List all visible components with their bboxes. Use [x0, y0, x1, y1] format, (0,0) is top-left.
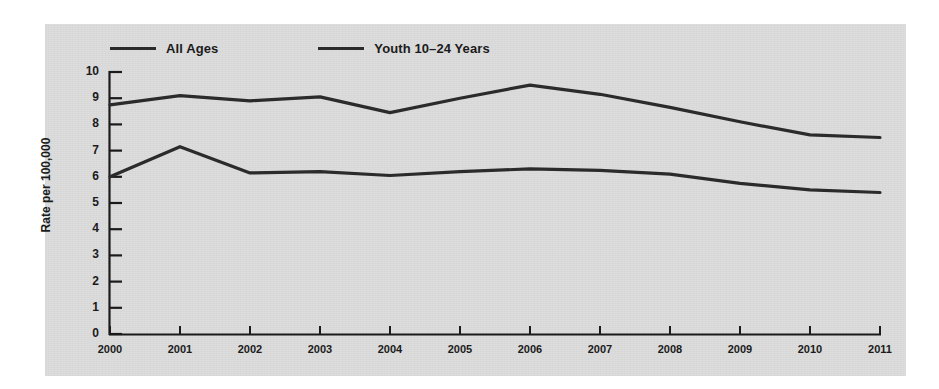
y-axis-tick-label: 9 [73, 90, 99, 104]
x-axis-tick-label: 2009 [710, 343, 770, 355]
x-axis-tick-label: 2003 [290, 343, 350, 355]
chart-figure: All Ages Youth 10–24 Years Rate per 100,… [0, 0, 939, 389]
y-axis-tick-label: 6 [73, 169, 99, 183]
y-axis-tick-label: 3 [73, 247, 99, 261]
x-axis-tick-label: 2006 [500, 343, 560, 355]
y-axis-tick-label: 5 [73, 195, 99, 209]
y-axis-tick-label: 8 [73, 116, 99, 130]
y-axis-tick-label: 2 [73, 274, 99, 288]
y-axis-tick-label: 4 [73, 221, 99, 235]
x-axis-tick-label: 2004 [360, 343, 420, 355]
x-axis-tick-label: 2002 [220, 343, 280, 355]
y-axis-title: Rate per 100,000 [39, 105, 53, 265]
y-axis-tick-label: 10 [73, 64, 99, 78]
x-axis-tick-label: 2000 [80, 343, 140, 355]
x-axis-tick-label: 2010 [780, 343, 840, 355]
x-axis-tick-label: 2005 [430, 343, 490, 355]
x-axis-tick-label: 2001 [150, 343, 210, 355]
y-axis-tick-label: 0 [73, 326, 99, 340]
y-axis-tick-label: 1 [73, 300, 99, 314]
y-axis-tick-label: 7 [73, 143, 99, 157]
x-axis-tick-label: 2011 [850, 343, 910, 355]
x-axis-tick-label: 2008 [640, 343, 700, 355]
chart-labels-layer: Rate per 100,000 01234567891020002001200… [0, 0, 939, 389]
x-axis-tick-label: 2007 [570, 343, 630, 355]
